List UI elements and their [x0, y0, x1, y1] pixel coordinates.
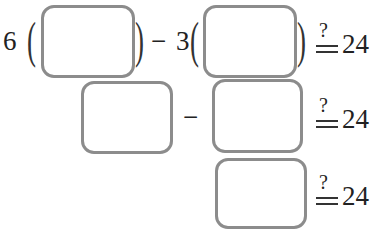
answer-box-5[interactable]: [215, 158, 307, 229]
equals-line: [316, 120, 338, 122]
rhs-value: 24: [342, 31, 369, 58]
minus-sign: −: [151, 28, 166, 55]
questioned-equals-icon: ?: [316, 95, 338, 131]
questioned-equals-icon: ?: [316, 172, 338, 208]
equals-line: [316, 45, 338, 47]
open-paren: (: [190, 15, 199, 66]
close-paren: ): [297, 15, 306, 66]
answer-box-2[interactable]: [203, 5, 297, 78]
question-mark: ?: [319, 95, 328, 115]
minus-sign: −: [183, 104, 198, 131]
questioned-equals-icon: ?: [316, 20, 338, 56]
equals-line: [316, 51, 338, 53]
answer-box-4[interactable]: [212, 79, 303, 153]
answer-box-3[interactable]: [81, 81, 173, 154]
question-mark: ?: [319, 172, 328, 192]
coefficient-3: 3: [176, 28, 190, 55]
close-paren: ): [135, 15, 144, 66]
equals-line: [316, 126, 338, 128]
answer-box-1[interactable]: [41, 5, 135, 78]
rhs-value: 24: [342, 106, 369, 133]
rhs-value: 24: [342, 183, 369, 210]
coefficient-6: 6: [3, 28, 17, 55]
open-paren: (: [27, 15, 36, 66]
equals-line: [316, 203, 338, 205]
question-mark: ?: [319, 20, 328, 40]
equals-line: [316, 197, 338, 199]
